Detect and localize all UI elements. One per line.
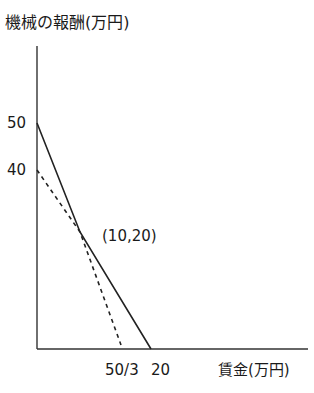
- y-axis-label: 機械の報酬(万円): [5, 15, 129, 31]
- y-tick-50: 50: [7, 116, 26, 131]
- point-annotation: (10,20): [102, 229, 157, 244]
- chart-plot: [0, 0, 314, 393]
- dashed-line: [37, 170, 121, 345]
- x-tick-50-3: 50/3: [105, 363, 139, 378]
- x-axis-label: 賃金(万円): [218, 363, 290, 378]
- y-tick-40: 40: [7, 163, 26, 178]
- x-tick-20: 20: [151, 363, 170, 378]
